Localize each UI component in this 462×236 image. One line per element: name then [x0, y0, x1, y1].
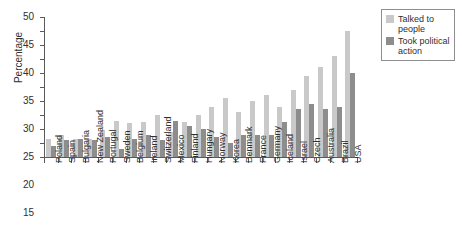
x-axis-tick-label: Israel — [300, 141, 309, 163]
y-axis-tick-label: 25 — [23, 152, 34, 162]
y-axis-tick-label: 45 — [23, 40, 34, 50]
y-axis-tick: 25 — [40, 87, 45, 88]
legend-label: Took political action — [398, 36, 451, 56]
y-axis-tick: 10 — [40, 129, 45, 130]
y-axis-tick: 35 — [40, 59, 45, 60]
bar-group — [345, 17, 355, 157]
x-axis-tick-label: Bulgaria — [82, 130, 91, 163]
x-axis-tick-label: Poland — [55, 135, 64, 163]
bar-chart: Percentage 05101520253035404550 Talked t… — [0, 0, 462, 236]
x-axis-tick-label: Germany — [273, 126, 282, 163]
y-axis-tick-label: 15 — [23, 208, 34, 218]
y-axis-tick: 5 — [40, 143, 45, 144]
legend-item-talked-to-people: Talked to people — [386, 14, 451, 34]
y-axis-tick: 20 — [40, 101, 45, 102]
y-axis-tick: 45 — [40, 31, 45, 32]
y-axis-tick: 15 — [40, 115, 45, 116]
y-axis-tick-label: 35 — [23, 96, 34, 106]
x-axis-line — [44, 157, 358, 158]
y-axis-title: Percentage — [13, 10, 24, 106]
x-axis-tick-label: Mexico — [177, 134, 186, 163]
x-axis-tick-label: Brazil — [341, 140, 350, 163]
x-axis-tick-label: Belgium — [136, 130, 145, 163]
y-axis-tick: 50 — [40, 17, 45, 18]
x-axis-tick-label: Spain — [68, 140, 77, 163]
y-axis-tick-label: 40 — [23, 68, 34, 78]
y-axis-tick-label: 30 — [23, 124, 34, 134]
y-axis-tick-label: 50 — [23, 12, 34, 22]
x-axis-tick-label: Finland — [191, 133, 200, 163]
x-axis-tick-label: Hungary — [205, 129, 214, 163]
x-axis-tick-label: Australia — [327, 128, 336, 163]
y-axis-tick: 40 — [40, 45, 45, 46]
x-axis-tick-label: Korea — [232, 139, 241, 163]
x-axis-tick-label: New Zealand — [96, 110, 105, 163]
legend-swatch-icon — [386, 15, 394, 23]
y-axis-tick: 30 — [40, 73, 45, 74]
bar-group — [304, 17, 314, 157]
legend-label: Talked to people — [398, 14, 451, 34]
chart-legend: Talked to people Took political action — [381, 9, 455, 61]
legend-item-took-political-action: Took political action — [386, 36, 451, 56]
x-axis-tick-label: France — [259, 135, 268, 163]
x-axis-tick-label: Iceland — [286, 134, 295, 163]
x-axis-tick-label: Ireland — [150, 135, 159, 163]
y-axis-tick-label: 20 — [23, 180, 34, 190]
legend-swatch-icon — [386, 37, 394, 45]
x-axis-tick-label: Denmark — [245, 126, 254, 163]
x-axis-tick-label: Portugal — [109, 129, 118, 163]
x-axis-tick-label: Czech — [313, 137, 322, 163]
x-axis-tick-label: USA — [354, 144, 363, 163]
x-axis-tick-label: Norway — [218, 132, 227, 163]
x-axis-tick-label: Switzerland — [164, 116, 173, 163]
x-axis-tick — [44, 158, 45, 163]
x-axis-tick-label: Sweden — [123, 130, 132, 163]
